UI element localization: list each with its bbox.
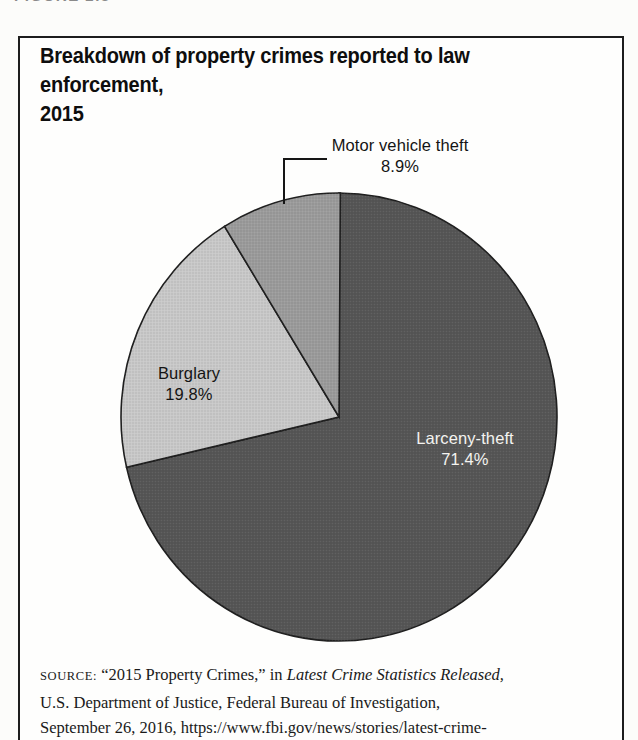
figure-title-line2: 2015: [40, 102, 84, 126]
slice-name: Burglary: [158, 364, 220, 382]
source-line3-text: September 26, 2016, https://www.fbi.gov/…: [40, 718, 487, 737]
scanned-figure-page: FIGURE 2.3 Breakdown of property crimes …: [0, 0, 638, 740]
figure-number-label-cropped: FIGURE 2.3: [14, 0, 214, 7]
figure-title: Breakdown of property crimes reported to…: [40, 42, 598, 129]
callout-line-vertical: [283, 158, 285, 204]
slice-name: Motor vehicle theft: [332, 136, 469, 154]
slice-name: Larceny-theft: [416, 429, 514, 447]
pie-chart-svg: [117, 191, 562, 643]
slice-percent: 19.8%: [119, 384, 259, 405]
slice-percent: 71.4%: [385, 449, 545, 470]
source-note: SOURCE: “2015 Property Crimes,” in Lates…: [40, 662, 625, 740]
slice-percent: 8.9%: [300, 156, 500, 177]
slice-label-motor-vehicle-theft: Motor vehicle theft 8.9%: [300, 135, 500, 177]
pie-chart: [117, 191, 562, 643]
figure-title-line1: Breakdown of property crimes reported to…: [40, 44, 470, 97]
source-label: SOURCE:: [40, 669, 97, 683]
slice-label-larceny-theft: Larceny-theft 71.4%: [385, 428, 545, 470]
source-line1-text: “2015 Property Crimes,” in: [101, 665, 287, 684]
source-line2-text: U.S. Department of Justice, Federal Bure…: [40, 693, 440, 712]
source-line1-italic: Latest Crime Statistics Released,: [287, 665, 504, 684]
figure-number-text: FIGURE 2.3: [14, 0, 214, 4]
halftone-texture-overlay: [121, 193, 557, 641]
slice-label-burglary: Burglary 19.8%: [119, 363, 259, 405]
